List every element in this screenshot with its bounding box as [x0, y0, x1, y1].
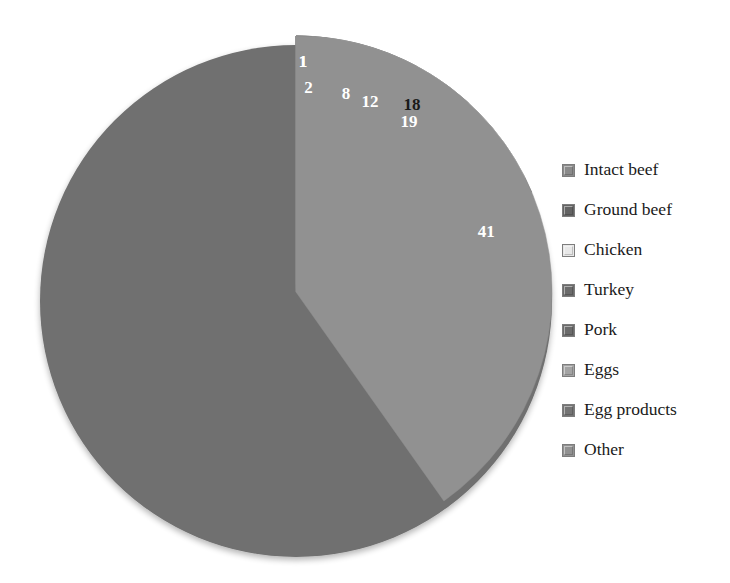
legend-swatch-icon	[562, 284, 575, 297]
legend-item-label: Intact beef	[584, 161, 658, 179]
pie-svg: 119188212141	[0, 0, 560, 583]
legend-swatch-icon	[562, 404, 575, 417]
legend-item-label: Chicken	[584, 241, 642, 259]
pie-slice-label-other: 41	[478, 222, 495, 241]
pie-slice-label-chicken: 18	[403, 95, 420, 114]
legend-item-label: Ground beef	[584, 201, 672, 219]
pie-chart-figure: 119188212141 Intact beefGround beefChick…	[0, 0, 730, 583]
pie-slice-label-pork: 2	[304, 78, 313, 97]
legend-swatch-icon	[562, 364, 575, 377]
legend-item-egg-products[interactable]: Egg products	[562, 390, 730, 430]
pie-slice-label-turkey: 8	[342, 84, 351, 103]
pie-plot-area: 119188212141	[0, 0, 560, 583]
legend-swatch-icon	[562, 244, 575, 257]
pie-slice-label-egg-products: 1	[299, 52, 308, 71]
legend-item-label: Turkey	[584, 281, 634, 299]
chart-legend: Intact beefGround beefChickenTurkeyPorkE…	[562, 150, 730, 470]
legend-item-label: Other	[584, 441, 624, 459]
pie-slice-label-eggs: 12	[361, 92, 378, 111]
legend-item-eggs[interactable]: Eggs	[562, 350, 730, 390]
legend-item-chicken[interactable]: Chicken	[562, 230, 730, 270]
legend-swatch-icon	[562, 164, 575, 177]
legend-item-label: Pork	[584, 321, 617, 339]
legend-item-other[interactable]: Other	[562, 430, 730, 470]
legend-item-label: Eggs	[584, 361, 619, 379]
legend-swatch-icon	[562, 324, 575, 337]
legend-item-ground-beef[interactable]: Ground beef	[562, 190, 730, 230]
legend-swatch-icon	[562, 204, 575, 217]
legend-swatch-icon	[562, 444, 575, 457]
legend-item-label: Egg products	[584, 401, 677, 419]
legend-item-turkey[interactable]: Turkey	[562, 270, 730, 310]
legend-item-intact-beef[interactable]: Intact beef	[562, 150, 730, 190]
pie-slice-label-ground-beef: 19	[401, 112, 418, 131]
legend-item-pork[interactable]: Pork	[562, 310, 730, 350]
